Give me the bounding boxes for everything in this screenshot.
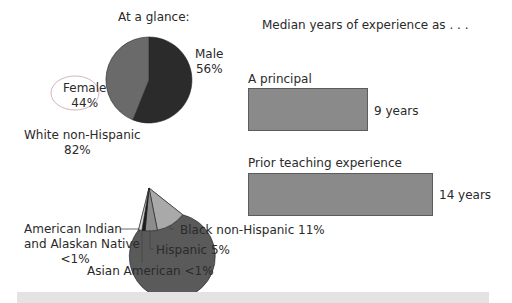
bar-label-prior-teaching: Prior teaching experience xyxy=(248,156,402,170)
label-female-value: 44% xyxy=(63,96,106,111)
label-male-value: 56% xyxy=(195,62,223,77)
bar-prior-teaching xyxy=(248,173,433,216)
label-american-indian-line2: and Alaskan Native xyxy=(24,237,126,252)
label-white-name: White non-Hispanic xyxy=(24,128,141,143)
bar-principal xyxy=(248,88,368,131)
bar-value-principal: 9 years xyxy=(374,104,418,118)
label-female-name: Female xyxy=(63,81,106,96)
gender-pie xyxy=(106,37,192,123)
label-hispanic: Hispanic 5% xyxy=(156,243,230,257)
footer-band xyxy=(17,292,489,303)
bar-value-prior-teaching: 14 years xyxy=(439,188,491,202)
median-experience-title: Median years of experience as . . . xyxy=(262,18,469,32)
label-american-indian-line1: American Indian xyxy=(24,222,126,237)
bar-label-principal: A principal xyxy=(248,72,312,86)
label-male-name: Male xyxy=(195,47,223,62)
label-asian: Asian American <1% xyxy=(87,264,214,278)
label-black: Black non-Hispanic 11% xyxy=(180,223,325,237)
label-white-value: 82% xyxy=(24,143,141,158)
label-male: Male 56% xyxy=(195,47,223,77)
label-american-indian: American Indian and Alaskan Native <1% xyxy=(24,222,126,267)
label-female: Female 44% xyxy=(63,81,106,111)
label-white: White non-Hispanic 82% xyxy=(24,128,141,158)
